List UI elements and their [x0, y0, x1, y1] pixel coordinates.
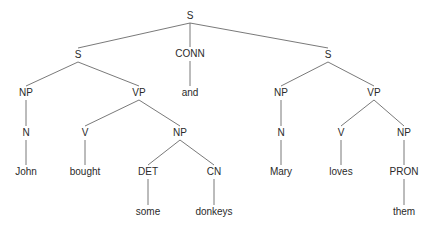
tree-node-np3: NP [274, 87, 288, 98]
tree-edge-s0-s1 [78, 23, 190, 48]
tree-node-s2: S [325, 49, 332, 60]
tree-edge-np2-cn [180, 140, 214, 165]
tree-edge-np2-det [148, 140, 180, 165]
parse-tree-diagram: SSCONNSNPVPandNPVPNVNPNVNPJohnboughtDETC… [0, 0, 429, 229]
tree-node-np4: NP [397, 127, 411, 138]
tree-node-pron: PRON [390, 166, 419, 177]
tree-node-np2: NP [173, 127, 187, 138]
tree-node-vp2: VP [367, 87, 381, 98]
tree-node-v2: V [338, 127, 345, 138]
tree-node-bought: bought [70, 166, 101, 177]
tree-edge-s2-vp2 [328, 62, 374, 86]
tree-node-n2: N [277, 127, 284, 138]
tree-edges [26, 23, 404, 205]
tree-node-s1: S [75, 49, 82, 60]
tree-node-det: DET [138, 166, 158, 177]
tree-edge-vp1-np2 [139, 100, 180, 126]
tree-node-some: some [136, 206, 161, 217]
tree-node-n1: N [22, 127, 29, 138]
tree-node-cn: CN [207, 166, 221, 177]
tree-edge-vp2-v2 [341, 100, 374, 126]
tree-edge-s1-vp1 [78, 62, 139, 86]
tree-edge-s0-s2 [190, 23, 328, 48]
tree-node-john: John [15, 166, 37, 177]
tree-edge-vp1-v1 [85, 100, 139, 126]
tree-edge-vp2-np4 [374, 100, 404, 126]
tree-edge-s2-np3 [281, 62, 328, 86]
tree-node-vp1: VP [132, 87, 146, 98]
tree-node-donkeys: donkeys [195, 206, 232, 217]
tree-node-conn: CONN [175, 48, 204, 59]
tree-node-mary: Mary [270, 166, 292, 177]
tree-node-and: and [182, 87, 199, 98]
tree-node-them: them [393, 206, 415, 217]
tree-node-v1: V [82, 127, 89, 138]
tree-node-loves: loves [329, 166, 352, 177]
tree-node-s0: S [187, 10, 194, 21]
tree-edge-s1-np1 [26, 62, 78, 86]
tree-node-np1: NP [19, 87, 33, 98]
